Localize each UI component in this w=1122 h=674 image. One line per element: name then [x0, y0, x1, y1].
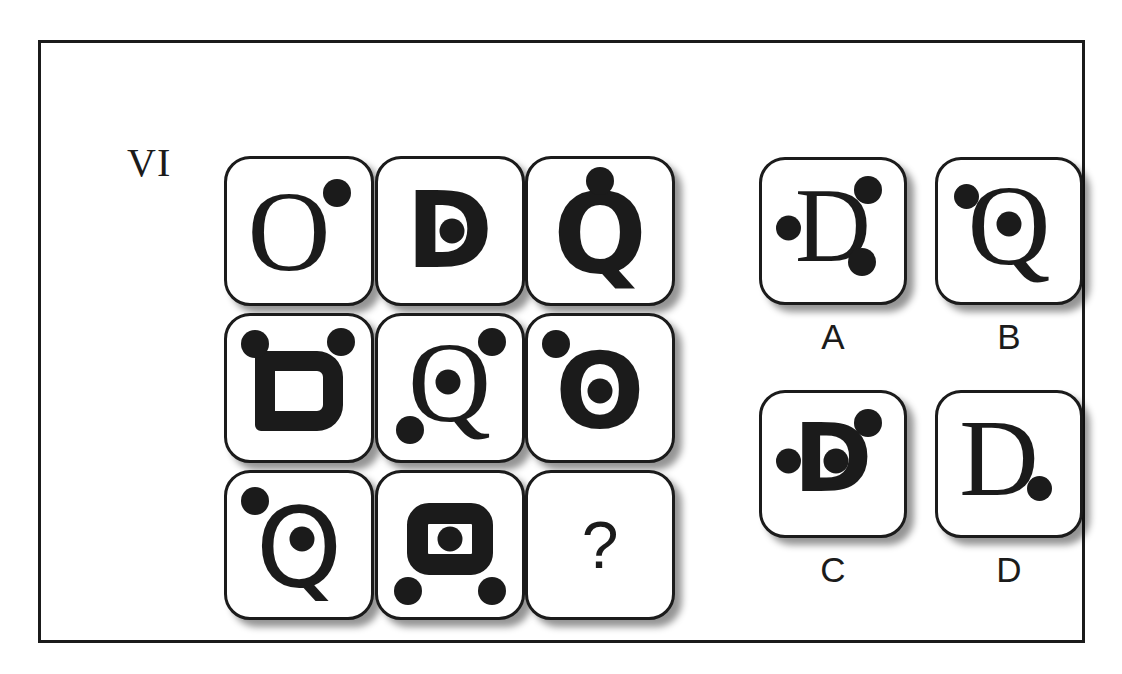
- matrix-cell-r1c1[interactable]: O: [224, 156, 374, 306]
- dot-top-right: [323, 179, 351, 207]
- answer-label-a: A: [821, 319, 844, 354]
- dot-top-center: [586, 167, 614, 195]
- matrix-cell-r2c3[interactable]: O: [525, 313, 675, 463]
- dot-top-left: [542, 330, 570, 358]
- dot-top-right: [854, 409, 882, 437]
- dot-inside: [289, 527, 314, 552]
- dot-top-left: [241, 330, 269, 358]
- matrix-grid: O D Q D Q O: [224, 156, 676, 628]
- dot-top-left: [954, 184, 979, 209]
- dot-bottom-right: [478, 577, 506, 605]
- dot-inside: [823, 449, 848, 474]
- puzzle-frame: VI O D Q D Q: [38, 40, 1085, 643]
- dot-bottom-right: [1027, 476, 1052, 501]
- matrix-cell-r1c2[interactable]: D: [375, 156, 525, 306]
- matrix-cell-r3c2[interactable]: O: [375, 470, 525, 620]
- answer-label-c: C: [820, 552, 845, 587]
- answer-option-d[interactable]: D: [935, 390, 1083, 538]
- matrix-cell-r1c3[interactable]: Q: [525, 156, 675, 306]
- puzzle-index-label: VI: [127, 143, 171, 183]
- dot-bottom-left: [394, 577, 422, 605]
- dot-inside: [436, 370, 461, 395]
- matrix-cell-r2c1[interactable]: D: [224, 313, 374, 463]
- answer-label-b: B: [997, 319, 1020, 354]
- dot-bottom-right: [848, 248, 876, 276]
- matrix-cell-missing[interactable]: ?: [525, 470, 675, 620]
- dot-top-right: [854, 176, 882, 204]
- answer-slot-d: D D: [921, 390, 1097, 623]
- dot-inside: [997, 211, 1022, 236]
- dot-bottom-left: [396, 416, 424, 444]
- glyph-letter-shape: [255, 351, 343, 431]
- answer-options-panel: D A Q B D C: [745, 157, 1097, 623]
- dot-inside: [437, 527, 462, 552]
- answer-option-b[interactable]: Q: [935, 157, 1083, 305]
- dot-left: [776, 216, 801, 241]
- answer-option-c[interactable]: D: [759, 390, 907, 538]
- dot-top-left: [241, 487, 269, 515]
- dot-left: [776, 449, 801, 474]
- dot-inside: [588, 378, 613, 403]
- answer-label-d: D: [996, 552, 1021, 587]
- answer-slot-a: D A: [745, 157, 921, 390]
- answer-slot-c: D C: [745, 390, 921, 623]
- matrix-cell-r2c2[interactable]: Q: [375, 313, 525, 463]
- glyph-letter: D: [928, 387, 1070, 529]
- matrix-cell-r3c1[interactable]: Q: [224, 470, 374, 620]
- answer-option-a[interactable]: D: [759, 157, 907, 305]
- dot-inside: [440, 219, 465, 244]
- question-mark: ?: [528, 473, 672, 617]
- dot-top-right: [327, 328, 355, 356]
- answer-slot-b: Q B: [921, 157, 1097, 390]
- dot-top-right: [478, 328, 506, 356]
